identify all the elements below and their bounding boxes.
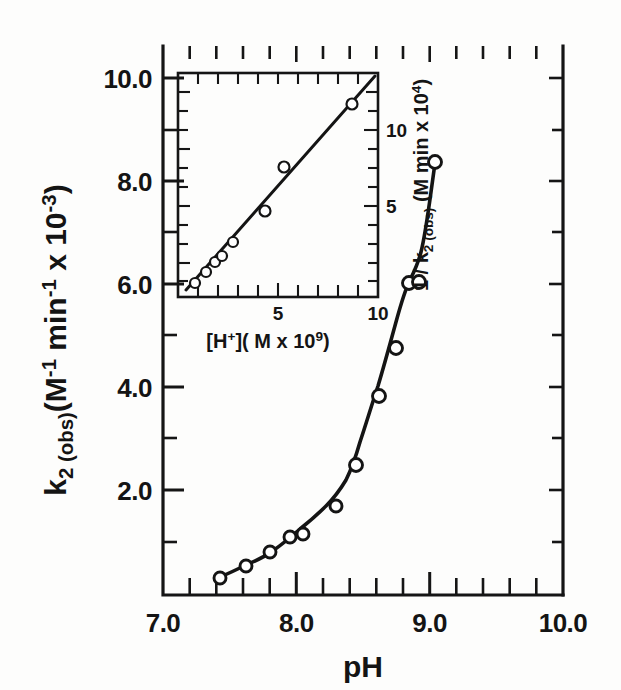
- inset-y-tick-label-10: 10: [386, 120, 407, 141]
- main-axis-frame: [163, 46, 563, 595]
- x-axis-title: pH: [343, 650, 383, 683]
- x-tick-label-10: 10.0: [539, 608, 588, 638]
- data-point: [264, 546, 276, 558]
- inset-data-point: [347, 99, 358, 110]
- inset-x-axis-title: [H+]( M x 109): [206, 329, 329, 352]
- inset-plot: 5 10 10 5 [H+]( M x 109) 1 / k2 (obs) (M…: [178, 73, 436, 352]
- inset-right-ticks: [364, 92, 378, 281]
- y-title-mid: min: [39, 297, 72, 359]
- y-title-paren-close: ): [39, 184, 72, 194]
- inset-data-markers: [190, 99, 358, 289]
- inset-x-tick-label-10: 10: [367, 303, 388, 324]
- inset-y-unit: (M min x 10: [410, 93, 432, 207]
- inset-data-point: [217, 251, 227, 261]
- svg-text:1 / k2 (obs) (M min x 104): 1 / k2 (obs) (M min x 104): [409, 79, 436, 291]
- main-data-curve: [220, 163, 435, 577]
- inset-top-ticks: [198, 73, 358, 84]
- inset-data-point: [228, 237, 238, 247]
- y-tick-label-2: 2.0: [117, 476, 152, 506]
- inset-x-bracket-close: ]: [235, 330, 242, 352]
- y-title-sup2: -1: [38, 279, 60, 297]
- inset-data-point: [190, 278, 200, 288]
- main-axis-lines: [163, 46, 563, 595]
- data-point: [284, 531, 296, 543]
- inset-x-h: H: [213, 330, 227, 352]
- y-title-base: k: [39, 479, 72, 496]
- inset-x-paren-close: ): [323, 330, 330, 352]
- inset-y-lead: 1 / k: [410, 251, 432, 291]
- data-point: [214, 572, 226, 584]
- y-title-base-sub: 2 (obs): [55, 412, 77, 479]
- inset-x-plus: +: [227, 329, 235, 344]
- x-tick-label-9: 9.0: [412, 608, 447, 638]
- y-tick-label-4: 4.0: [117, 373, 152, 403]
- figure-root: 10.0 8.0 6.0 4.0 2.0 7.0 8.0 9.0 10.0 pH…: [0, 0, 621, 690]
- main-x-tick-labels: 7.0 8.0 9.0 10.0: [146, 608, 588, 638]
- svg-text:k2 (obs)(M-1 min-1 x 10-3): k2 (obs)(M-1 min-1 x 10-3): [38, 184, 77, 495]
- main-top-ticks: [190, 46, 537, 62]
- inset-bottom-ticks: [198, 283, 358, 297]
- inset-y-sub: 2 (obs): [421, 208, 436, 253]
- x-tick-label-7: 7.0: [146, 608, 181, 638]
- inset-x-paren: ( M x 10: [242, 330, 315, 352]
- main-y-ticks: [163, 78, 184, 542]
- inset-data-point: [201, 267, 211, 277]
- inset-x-tick-label-5: 5: [273, 303, 284, 324]
- inset-y-axis-title: 1 / k2 (obs) (M min x 104): [409, 79, 436, 291]
- inset-y-tick-label-5: 5: [386, 196, 397, 217]
- data-point: [330, 500, 342, 512]
- main-right-ticks: [549, 78, 563, 542]
- data-point: [297, 528, 309, 540]
- y-title-paren-open: (M: [39, 377, 72, 412]
- y-tick-label-6: 6.0: [117, 270, 152, 300]
- y-title-mul: x 10: [39, 212, 72, 279]
- main-x-ticks: [190, 572, 537, 595]
- data-point: [240, 560, 252, 572]
- y-tick-label-8: 8.0: [117, 167, 152, 197]
- data-point: [373, 390, 386, 403]
- data-point: [390, 342, 403, 355]
- inset-data-point: [279, 162, 290, 173]
- y-title-sup3: -3: [38, 194, 60, 212]
- y-title-sup1: -1: [38, 359, 60, 377]
- x-tick-label-8: 8.0: [279, 608, 314, 638]
- inset-left-ticks: [178, 92, 190, 281]
- main-y-tick-labels: 10.0 8.0 6.0 4.0 2.0: [103, 64, 152, 506]
- inset-y-close: ): [410, 79, 432, 86]
- inset-data-point: [260, 206, 271, 217]
- y-axis-title: k2 (obs)(M-1 min-1 x 10-3): [38, 184, 77, 495]
- data-point: [350, 459, 363, 472]
- kinetics-ph-figure: 10.0 8.0 6.0 4.0 2.0 7.0 8.0 9.0 10.0 pH…: [0, 0, 621, 690]
- y-tick-label-10: 10.0: [103, 64, 152, 94]
